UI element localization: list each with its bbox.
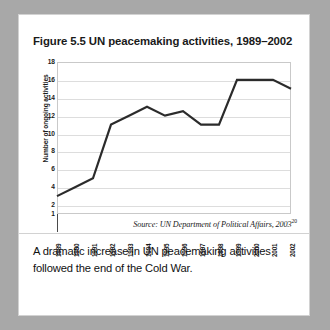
caption-divider <box>19 233 309 234</box>
y-tick-label: 1 <box>31 211 55 218</box>
y-tick-label: 6 <box>31 166 55 173</box>
source-text: Source: UN Department of Political Affai… <box>133 220 291 229</box>
y-tick-label: 4 <box>31 184 55 191</box>
source-note: Source: UN Department of Political Affai… <box>33 218 297 229</box>
y-tick-label: 12 <box>31 113 55 120</box>
series-line <box>57 62 291 214</box>
y-tick-label: 8 <box>31 148 55 155</box>
y-tick-label: 16 <box>31 77 55 84</box>
y-axis-ticks: 181614121086421 <box>29 57 55 237</box>
y-tick-label: 14 <box>31 95 55 102</box>
y-tick-label: 2 <box>31 202 55 209</box>
y-tick-label: 18 <box>31 59 55 66</box>
figure-card: Figure 5.5 UN peacemaking activities, 19… <box>18 14 310 316</box>
figure-caption: A dramatic increase in UN peacemaking ac… <box>33 243 297 277</box>
figure-title: Figure 5.5 UN peacemaking activities, 19… <box>33 35 303 47</box>
source-footnote-marker: 20 <box>292 218 297 224</box>
y-tick-label: 10 <box>31 131 55 138</box>
series-polyline <box>57 80 291 196</box>
